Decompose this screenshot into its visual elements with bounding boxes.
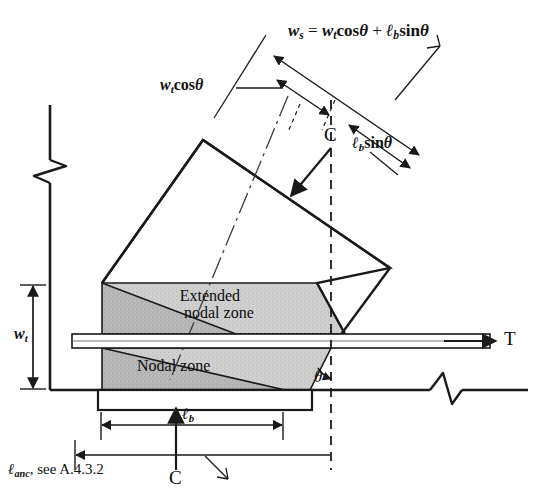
extended-nodal-zone-line1: Extended — [166, 288, 254, 305]
theta-angle-label: θ — [314, 368, 322, 386]
nodal-zone-label: Nodal zone — [137, 358, 210, 375]
tension-label: T — [504, 329, 516, 349]
bearing-plate — [98, 390, 312, 410]
compression-bottom-label: C — [169, 468, 182, 488]
extended-nodal-zone-line2: nodal zone — [166, 305, 254, 322]
lanc-dimension — [75, 440, 330, 479]
ws-equation-label: ws = wtcosθ + ℓbsinθ — [288, 22, 429, 42]
left-vertical-member — [34, 105, 66, 390]
lanc-note-label: ℓanc, see A.4.3.2 — [8, 462, 104, 480]
wt-dimension-label: wt — [14, 326, 28, 344]
extended-nodal-zone-label: Extended nodal zone — [166, 288, 254, 322]
lb-sin-theta-label: ℓbsinθ — [352, 135, 392, 153]
wt-cos-theta-label: wtcosθ — [160, 77, 203, 95]
compression-arrow-top — [291, 148, 331, 196]
tie-bar — [72, 334, 490, 348]
lb-dimension-label: ℓb — [182, 406, 194, 424]
strut-and-tie-figure: ws = wtcosθ + ℓbsinθ wtcosθ ℓbsinθ wt ℓb… — [0, 0, 546, 498]
diagram-canvas — [0, 0, 546, 498]
compression-top-label: C — [324, 125, 337, 145]
